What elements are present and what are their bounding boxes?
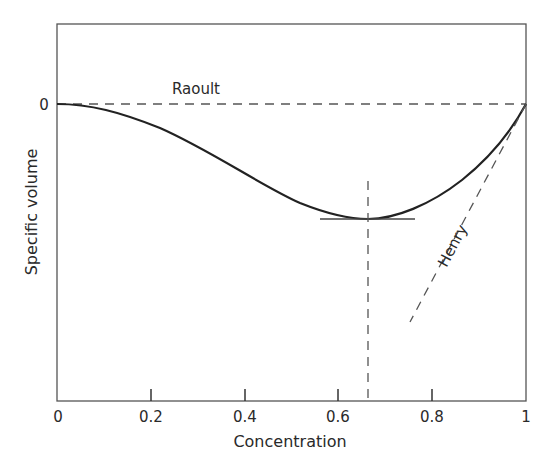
specific-volume-curve [57,104,526,219]
x-axis-label: Concentration [233,432,346,451]
x-tick-label-0: 0 [53,408,63,426]
raoult-label: Raoult [172,80,220,98]
henry-line [410,104,526,322]
x-tick-label-1: 1 [521,408,531,426]
x-tick-label-0.2: 0.2 [139,408,163,426]
plot-frame [57,24,526,401]
x-tick-label-0.8: 0.8 [420,408,444,426]
x-tick-label-0.4: 0.4 [233,408,257,426]
x-tick-label-0.6: 0.6 [326,408,350,426]
x-ticks [151,389,432,401]
henry-label: Henry [434,221,471,269]
chart: 0 0.2 0.4 0.6 0.8 1 Concentration 0 Spec… [0,0,553,466]
y-tick-label-0: 0 [39,96,49,114]
y-axis-label: Specific volume [22,149,41,276]
